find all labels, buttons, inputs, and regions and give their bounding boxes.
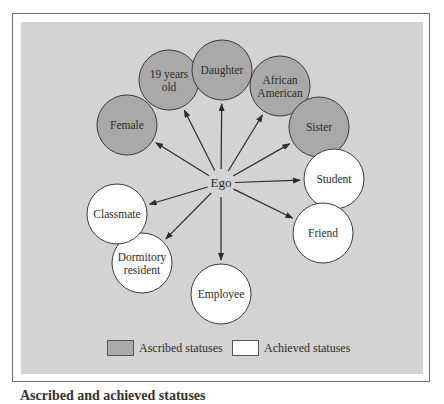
ego-label: Ego	[211, 175, 232, 190]
arrow-to-classmate	[150, 187, 208, 204]
status-node-daughter: Daughter	[192, 40, 252, 100]
arrow-to-dormitory-resident	[166, 193, 211, 239]
status-node-employee: Employee	[191, 264, 251, 324]
legend-ascribed: Ascribed statuses	[107, 339, 223, 357]
status-label: resident	[124, 264, 161, 276]
ascribed-legend-label: Ascribed statuses	[139, 341, 223, 356]
status-label: American	[257, 87, 303, 99]
arrow-to-19-years-old	[184, 110, 214, 170]
status-node-sister: Sister	[289, 97, 349, 157]
status-node-classmate: Classmate	[87, 184, 147, 244]
status-node-friend: Friend	[293, 203, 353, 263]
arrow-to-student	[235, 180, 300, 182]
status-label: Daughter	[201, 64, 244, 77]
legend-achieved: Achieved statuses	[232, 339, 350, 357]
status-node-19-years-old: 19 yearsold	[139, 50, 199, 110]
status-node-student: Student	[304, 149, 364, 209]
achieved-swatch	[232, 340, 259, 356]
status-node-female: Female	[97, 95, 157, 155]
status-label: Student	[316, 173, 352, 185]
status-label: Sister	[306, 121, 332, 133]
status-label: Dormitory	[118, 251, 167, 264]
status-label: old	[162, 81, 177, 93]
status-label: African	[262, 74, 297, 86]
arrow-to-daughter	[221, 104, 222, 169]
status-label: Classmate	[93, 208, 140, 220]
status-label: Employee	[198, 288, 245, 301]
status-label: Friend	[308, 227, 338, 239]
achieved-legend-label: Achieved statuses	[264, 341, 350, 356]
ascribed-swatch	[107, 340, 134, 356]
status-label: 19 years	[150, 68, 189, 81]
arrow-to-friend	[234, 189, 293, 218]
status-label: Female	[110, 119, 144, 131]
arrow-to-female	[156, 143, 209, 176]
figure-caption: Ascribed and achieved statuses	[20, 388, 206, 404]
